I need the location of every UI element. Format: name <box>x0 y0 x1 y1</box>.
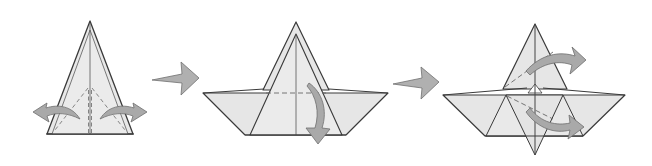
origami-diagram <box>0 0 652 166</box>
step-1-kite <box>33 21 147 134</box>
step-3-brim-left <box>443 88 527 95</box>
step-2-boat <box>203 22 388 144</box>
step-transition-1-2 <box>152 62 199 95</box>
step-3-brim-right <box>543 88 625 95</box>
step-transition-2-3 <box>393 67 439 99</box>
step-arrow-right-icon <box>393 67 439 99</box>
step-arrow-right-icon <box>152 62 199 95</box>
step-3-boat-with-flaps <box>443 24 625 155</box>
